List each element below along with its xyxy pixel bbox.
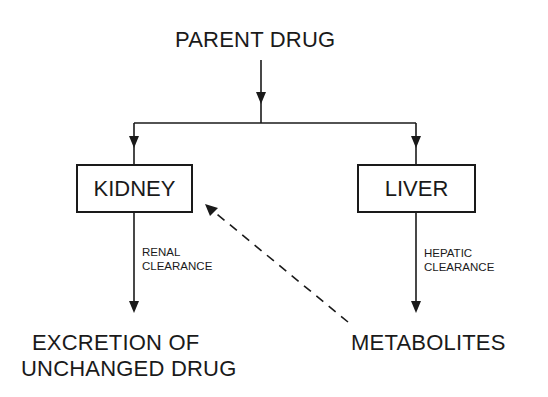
metabolites-label: METABOLITES (351, 332, 506, 354)
kidney-label: KIDNEY (94, 176, 176, 202)
excretion-label-line1: EXCRETION OF (32, 332, 199, 354)
renal-clearance-label: RENAL CLEARANCE (142, 245, 212, 273)
hepatic-label-line1: HEPATIC (424, 246, 494, 260)
arrowhead-icon (129, 301, 139, 313)
arrowhead-icon (411, 301, 421, 313)
excretion-label-line2: UNCHANGED DRUG (21, 358, 236, 380)
hepatic-clearance-label: HEPATIC CLEARANCE (424, 246, 494, 274)
hepatic-label-line2: CLEARANCE (424, 260, 494, 274)
arrowhead-icon (205, 204, 218, 216)
parent-drug-label: PARENT DRUG (175, 29, 335, 51)
metabolites-to-kidney-dashed-line (212, 210, 348, 322)
liver-label: LIVER (385, 176, 449, 202)
renal-label-line2: CLEARANCE (142, 259, 212, 273)
liver-box: LIVER (357, 164, 476, 213)
arrowhead-icon (411, 136, 421, 148)
arrowhead-icon (129, 136, 139, 148)
arrowhead-icon (256, 92, 266, 104)
kidney-box: KIDNEY (76, 164, 193, 213)
renal-label-line1: RENAL (142, 245, 212, 259)
